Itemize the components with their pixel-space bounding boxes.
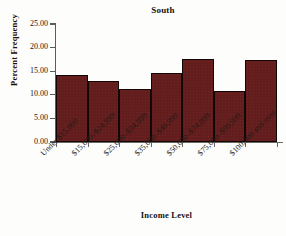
y-tick-label: 5.00	[14, 113, 48, 122]
y-tick-label: 20.00	[14, 42, 48, 51]
x-axis-title: Income Level	[56, 210, 277, 220]
chart-title: South	[0, 5, 286, 15]
x-tick-mark	[277, 143, 278, 147]
y-tick-label: 25.00	[14, 19, 48, 28]
y-tick-label: 10.00	[14, 89, 48, 98]
y-tick-label: 0.00	[14, 137, 48, 146]
y-tick-label: 15.00	[14, 66, 48, 75]
chart-figure: South Percent Frequency 0.005.0010.0015.…	[0, 0, 286, 236]
